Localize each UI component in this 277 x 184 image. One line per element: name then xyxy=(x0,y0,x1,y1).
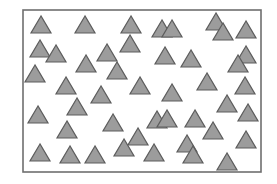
triangle-shape xyxy=(75,16,95,33)
triangle-shape xyxy=(130,77,150,94)
triangle-shape xyxy=(30,40,50,57)
triangle-shape xyxy=(217,95,237,112)
triangle-shape xyxy=(197,73,217,90)
triangle-shape xyxy=(91,86,111,103)
triangle-shape xyxy=(85,146,105,163)
triangle-scatter-figure xyxy=(0,0,277,184)
triangle-shape xyxy=(144,144,164,161)
triangle-shape xyxy=(97,44,117,61)
triangle-shape xyxy=(238,104,258,121)
triangle-shape xyxy=(155,47,175,64)
triangle-shape xyxy=(121,16,141,33)
triangle-shape xyxy=(181,50,201,67)
triangle-shape xyxy=(46,45,66,62)
triangle-shape xyxy=(162,84,182,101)
triangle-shape xyxy=(236,21,256,38)
triangle-shape xyxy=(107,62,127,79)
triangle-shape xyxy=(30,144,50,161)
triangle-shape xyxy=(31,16,51,33)
triangle-shape xyxy=(28,106,48,123)
triangle-shape xyxy=(103,114,123,131)
triangle-shape xyxy=(185,110,205,127)
triangle-shape xyxy=(56,77,76,94)
triangle-shape xyxy=(203,122,223,139)
triangle-shape xyxy=(60,146,80,163)
triangle-shape xyxy=(67,98,87,115)
triangle-shape xyxy=(25,65,45,82)
triangle-shape xyxy=(128,128,148,145)
triangle-shape xyxy=(217,153,237,170)
triangle-shape xyxy=(236,131,256,148)
triangles-group xyxy=(25,13,258,170)
triangle-shape xyxy=(57,121,77,138)
triangle-shape xyxy=(235,77,255,94)
triangle-shape xyxy=(120,35,140,52)
triangle-shape xyxy=(76,55,96,72)
